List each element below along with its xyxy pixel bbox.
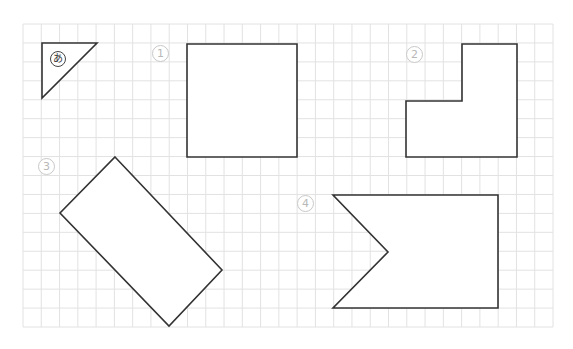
label-shape-2: 2 [406,46,423,63]
label-shape-3: 3 [38,158,55,175]
grid-figure [0,0,573,349]
shape-3 [60,157,222,326]
label-shape-1: 1 [152,45,169,62]
label-shape-4: 4 [297,195,314,212]
shape-2 [406,44,517,157]
label-a-triangle: あ [50,51,66,67]
shape-1 [187,44,297,157]
shapes [42,43,517,326]
shape-a [42,43,97,98]
